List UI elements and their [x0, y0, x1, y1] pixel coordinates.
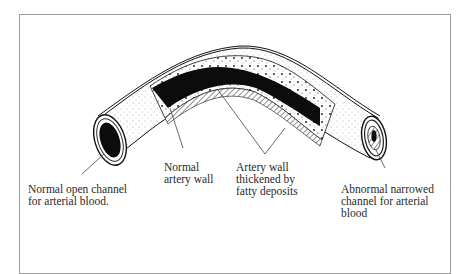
label-line: Normal open channel: [28, 183, 127, 195]
artery-tube: [98, 46, 380, 160]
label-line: Normal: [164, 161, 214, 173]
label-thickened-wall: Artery wall thickened by fatty deposits: [236, 161, 298, 197]
label-line: channel for arterial: [341, 195, 434, 207]
label-line: fatty deposits: [236, 185, 298, 197]
label-line: thickened by: [236, 173, 298, 185]
label-line: Abnormal narrowed: [341, 183, 434, 195]
label-line: for arterial blood.: [28, 195, 127, 207]
label-normal-artery-wall: Normal artery wall: [164, 161, 214, 185]
label-line: artery wall: [164, 173, 214, 185]
label-normal-open-channel: Normal open channel for arterial blood.: [28, 183, 127, 207]
label-line: Artery wall: [236, 161, 298, 173]
label-line: blood: [341, 207, 434, 219]
label-abnormal-narrowed-channel: Abnormal narrowed channel for arterial b…: [341, 183, 434, 219]
